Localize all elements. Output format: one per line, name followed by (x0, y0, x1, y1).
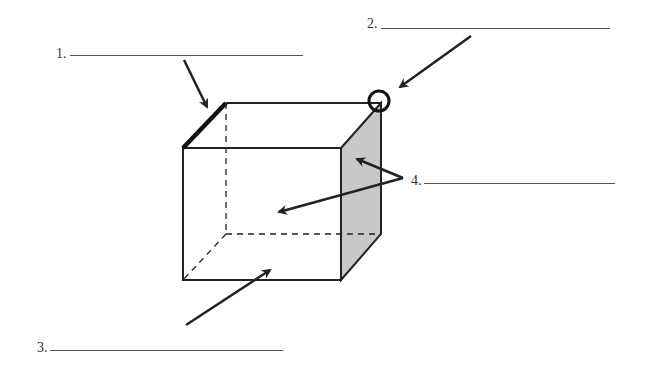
label-3-blank[interactable] (50, 350, 283, 351)
label-1-number: 1. (56, 47, 67, 61)
arrow-2-icon (400, 36, 471, 87)
label-4-number: 4. (411, 174, 422, 188)
label-2-number: 2. (367, 17, 378, 31)
highlighted-edge (183, 103, 226, 148)
label-4-blank[interactable] (424, 183, 615, 184)
arrow-3-icon (186, 270, 270, 325)
label-3-number: 3. (37, 341, 48, 355)
shaded-right-face (341, 103, 381, 280)
arrows (184, 36, 471, 325)
front-face (183, 148, 341, 280)
label-2-blank[interactable] (381, 28, 610, 29)
arrow-1-icon (184, 60, 207, 107)
label-1-blank[interactable] (70, 55, 303, 56)
